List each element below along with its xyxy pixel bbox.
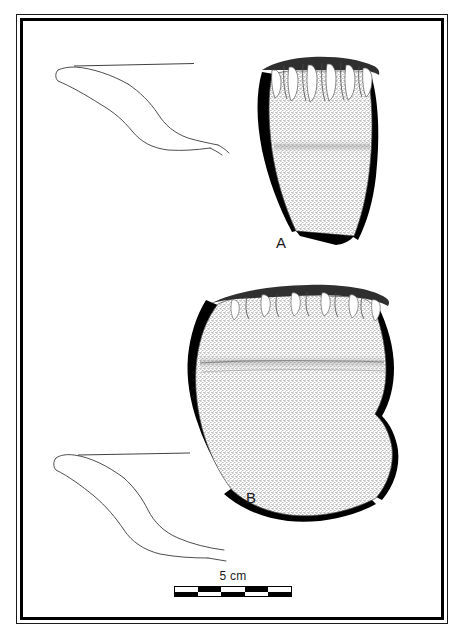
scale-cell <box>268 592 291 597</box>
scale-bar-row-bottom <box>175 592 291 597</box>
specimen-label-a: A <box>276 234 287 251</box>
figure-frame-inner <box>20 18 444 620</box>
scale-bar <box>174 586 292 597</box>
scale-cell <box>175 592 198 597</box>
specimen-label-b: B <box>246 489 257 506</box>
scale-cell <box>245 592 268 597</box>
scale-bar-group: 5 cm <box>172 569 294 597</box>
scale-cell <box>221 592 244 597</box>
scale-bar-label: 5 cm <box>172 569 294 583</box>
scale-cell <box>198 592 221 597</box>
figure-plate: A B 5 cm <box>0 0 460 644</box>
